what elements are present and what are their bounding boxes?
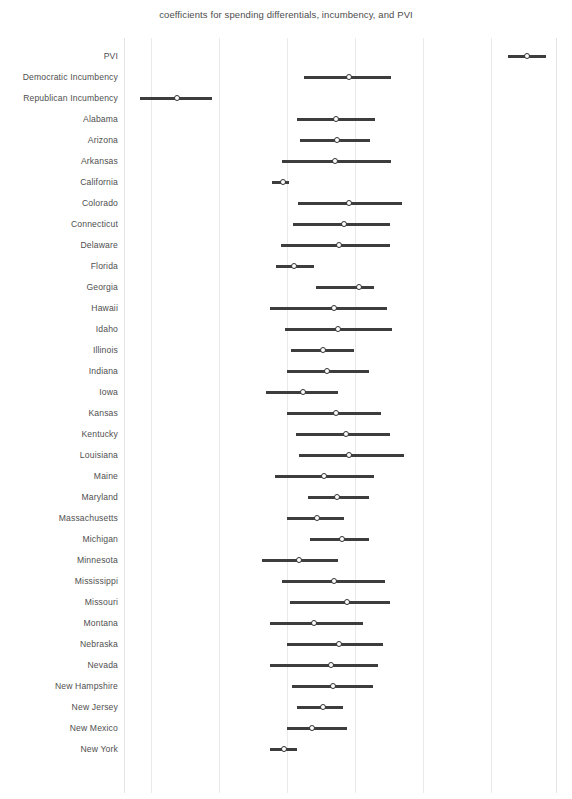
coefficient-row: Illinois: [0, 340, 572, 361]
row-label: Nebraska: [0, 634, 118, 655]
row-label: Montana: [0, 613, 118, 634]
estimate-point: [291, 263, 297, 269]
estimate-point: [321, 473, 327, 479]
confidence-interval-bar: [287, 727, 348, 730]
coefficient-row: Kentucky: [0, 424, 572, 445]
estimate-point: [296, 557, 302, 563]
coefficient-row: Florida: [0, 256, 572, 277]
estimate-point: [331, 578, 337, 584]
coefficient-row: Maryland: [0, 487, 572, 508]
coefficient-row: Delaware: [0, 235, 572, 256]
row-label: Colorado: [0, 193, 118, 214]
coefficient-row: Nebraska: [0, 634, 572, 655]
row-label: Alabama: [0, 109, 118, 130]
row-label: Iowa: [0, 382, 118, 403]
coefficient-row: Kansas: [0, 403, 572, 424]
row-label: Michigan: [0, 529, 118, 550]
coefficient-row: Colorado: [0, 193, 572, 214]
coefficient-row: California: [0, 172, 572, 193]
row-label: Arkansas: [0, 151, 118, 172]
estimate-point: [346, 200, 352, 206]
row-label: Connecticut: [0, 214, 118, 235]
row-label: Florida: [0, 256, 118, 277]
estimate-point: [320, 347, 326, 353]
estimate-point: [344, 599, 350, 605]
estimate-point: [314, 515, 320, 521]
row-label: Kentucky: [0, 424, 118, 445]
row-label: Hawaii: [0, 298, 118, 319]
coefficient-row: Connecticut: [0, 214, 572, 235]
estimate-point: [331, 305, 337, 311]
estimate-point: [311, 620, 317, 626]
row-label: New York: [0, 739, 118, 760]
row-label: California: [0, 172, 118, 193]
estimate-point: [324, 368, 330, 374]
row-label: Nevada: [0, 655, 118, 676]
row-label: Maine: [0, 466, 118, 487]
row-label: Kansas: [0, 403, 118, 424]
coefficient-row: Georgia: [0, 277, 572, 298]
estimate-point: [343, 431, 349, 437]
row-label: Georgia: [0, 277, 118, 298]
coefficient-plot: coefficients for spending differentials,…: [0, 0, 572, 799]
coefficient-row: New Mexico: [0, 718, 572, 739]
coefficient-row: Missouri: [0, 592, 572, 613]
estimate-point: [280, 179, 286, 185]
coefficient-row: New Jersey: [0, 697, 572, 718]
row-label: Arizona: [0, 130, 118, 151]
coefficient-row: Massachusetts: [0, 508, 572, 529]
row-label: Democratic Incumbency: [0, 67, 118, 88]
coefficient-row: Alabama: [0, 109, 572, 130]
estimate-point: [330, 683, 336, 689]
estimate-point: [281, 746, 287, 752]
estimate-point: [336, 641, 342, 647]
confidence-interval-bar: [290, 601, 390, 604]
row-label: Missouri: [0, 592, 118, 613]
coefficient-row: Nevada: [0, 655, 572, 676]
estimate-point: [320, 704, 326, 710]
coefficient-row: Maine: [0, 466, 572, 487]
coefficient-row: New York: [0, 739, 572, 760]
coefficient-row: Idaho: [0, 319, 572, 340]
confidence-interval-bar: [270, 307, 387, 310]
estimate-point: [300, 389, 306, 395]
coefficient-row: PVI: [0, 46, 572, 67]
coefficient-row: Indiana: [0, 361, 572, 382]
coefficient-row: Louisiana: [0, 445, 572, 466]
estimate-point: [333, 116, 339, 122]
row-label: Maryland: [0, 487, 118, 508]
row-label: New Jersey: [0, 697, 118, 718]
row-label: Delaware: [0, 235, 118, 256]
coefficient-row: New Hampshire: [0, 676, 572, 697]
coefficient-row: Minnesota: [0, 550, 572, 571]
row-label: New Mexico: [0, 718, 118, 739]
coefficient-row: Montana: [0, 613, 572, 634]
row-label: Republican Incumbency: [0, 88, 118, 109]
estimate-point: [346, 74, 352, 80]
confidence-interval-bar: [270, 664, 379, 667]
estimate-point: [356, 284, 362, 290]
row-label: Indiana: [0, 361, 118, 382]
row-label: Idaho: [0, 319, 118, 340]
estimate-point: [341, 221, 347, 227]
coefficient-row: Iowa: [0, 382, 572, 403]
confidence-interval-bar: [299, 454, 404, 457]
estimate-point: [174, 95, 180, 101]
row-label: Massachusetts: [0, 508, 118, 529]
estimate-point: [524, 53, 530, 59]
row-label: New Hampshire: [0, 676, 118, 697]
estimate-point: [339, 536, 345, 542]
coefficient-row: Arkansas: [0, 151, 572, 172]
estimate-point: [336, 242, 342, 248]
estimate-point: [309, 725, 315, 731]
row-label: Louisiana: [0, 445, 118, 466]
row-label: Minnesota: [0, 550, 118, 571]
estimate-point: [334, 137, 340, 143]
estimate-point: [328, 662, 334, 668]
confidence-interval-bar: [287, 643, 384, 646]
coefficient-row: Mississippi: [0, 571, 572, 592]
estimate-point: [333, 410, 339, 416]
estimate-point: [346, 452, 352, 458]
coefficient-row: Michigan: [0, 529, 572, 550]
coefficient-row: Arizona: [0, 130, 572, 151]
